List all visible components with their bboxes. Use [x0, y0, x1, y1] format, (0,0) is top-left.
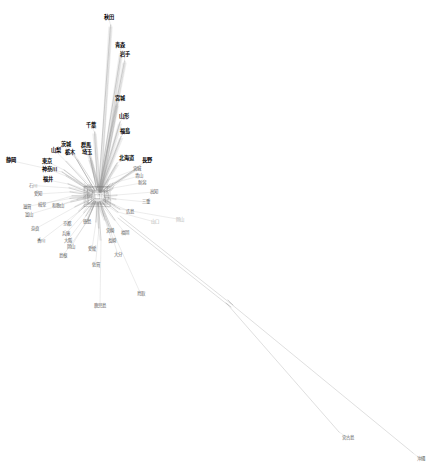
label-leader-lines — [11, 18, 421, 460]
network-diagram-canvas: 秋田青森岩手宮城山形福島千葉北海道長野群馬埼玉茨城栃木山梨静岡東京神奈川福井石川… — [0, 0, 434, 473]
network-edges — [62, 25, 413, 453]
splits-network-graphic — [0, 0, 434, 473]
